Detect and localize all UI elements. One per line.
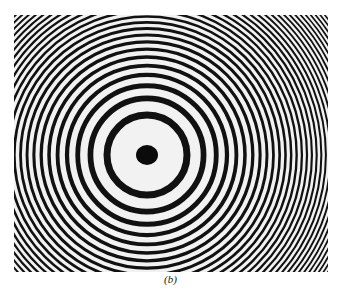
figure-caption: (b) [0,273,341,285]
concentric-fringe-pattern [14,15,328,272]
caption-label: (b) [164,273,177,285]
central-dark-spot [136,145,158,165]
interference-ring-photo [14,15,328,272]
